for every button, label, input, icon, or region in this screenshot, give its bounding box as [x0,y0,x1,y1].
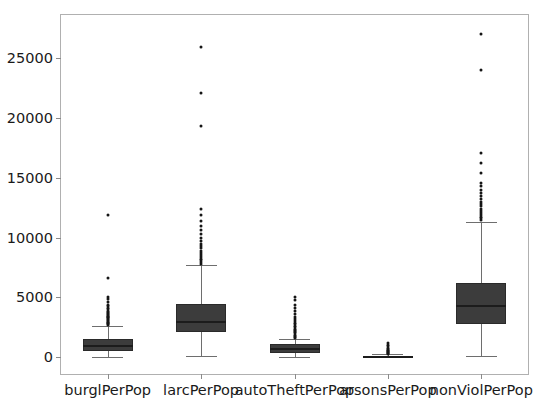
outlier-point [480,151,483,154]
x-axis-tick-label: larcPerPop [163,383,239,398]
x-axis-tick-label: autoTheftPerPop [235,383,355,398]
outlier-point [480,33,483,36]
lower-whisker-cap [466,356,497,357]
x-axis-tick-label: nonViolPerPop [430,383,533,398]
x-axis-tick-mark [481,374,482,379]
x-axis-tick-mark [295,374,296,379]
outlier-point [480,197,483,200]
lower-whisker-line [481,324,482,356]
x-axis-tick-mark [388,374,389,379]
y-axis-tick-label: 10000 [7,230,53,245]
outlier-point [480,171,483,174]
plot-area: 0500010000150002000025000burglPerPoplarc… [60,14,529,375]
upper-whisker-line [481,222,482,283]
x-axis-tick-label: burglPerPop [64,383,151,398]
y-axis-tick-label: 5000 [16,290,53,305]
box-iqr [456,283,506,324]
outlier-point [480,191,483,194]
outlier-point [480,162,483,165]
y-axis-tick-label: 0 [44,350,53,365]
y-axis-tick-label: 20000 [7,111,53,126]
x-axis-tick-mark [108,374,109,379]
boxplot-figure: 0500010000150002000025000burglPerPoplarc… [0,0,548,415]
outlier-point [480,188,483,191]
outlier-point [480,69,483,72]
x-axis-tick-label: arsonsPerPop [339,383,436,398]
boxplot-series [61,15,528,374]
outlier-point [480,181,483,184]
outlier-point [480,200,483,203]
outlier-point [480,194,483,197]
x-axis-tick-mark [201,374,202,379]
upper-whisker-cap [466,222,497,223]
y-axis-tick-label: 15000 [7,170,53,185]
outlier-point [480,185,483,188]
median-line [456,305,506,307]
y-axis-tick-label: 25000 [7,51,53,66]
